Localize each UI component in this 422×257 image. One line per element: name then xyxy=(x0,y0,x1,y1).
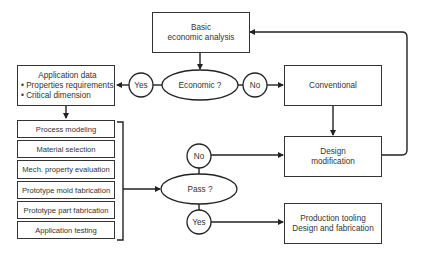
process-step-mech-property: Mech. property evaluation xyxy=(17,160,115,179)
economic-yes-label: Yes xyxy=(134,81,147,90)
conventional-label: Conventional xyxy=(309,81,357,91)
process-step-application-testing: Application testing xyxy=(17,221,115,239)
application-data-bullet-2: • Critical dimension xyxy=(21,91,91,101)
pass-decision-label: Pass ? xyxy=(187,185,212,194)
basic-line2: economic analysis xyxy=(168,33,235,43)
economic-no-label: No xyxy=(250,81,260,90)
process-bracket xyxy=(117,122,123,240)
process-step-prototype-mold: Prototype mold fabrication xyxy=(17,181,115,199)
application-data-title: Application data xyxy=(21,71,114,81)
design-mod-line1: Design xyxy=(320,147,346,157)
process-step-material-selection: Material selection xyxy=(17,140,115,158)
production-line2: Design and fabrication xyxy=(292,224,373,234)
pass-no-label: No xyxy=(194,152,204,161)
economic-decision-label: Economic ? xyxy=(179,81,222,90)
application-data-bullet-1: • Properties requirements xyxy=(21,81,114,91)
production-tooling-box: Production tooling Design and fabricatio… xyxy=(284,203,382,244)
basic-line1: Basic xyxy=(191,23,211,33)
design-mod-line2: modification xyxy=(311,157,355,167)
design-modification-box: Design modification xyxy=(284,136,382,177)
application-data-box: Application data • Properties requiremen… xyxy=(17,65,115,106)
basic-economic-analysis-box: Basic economic analysis xyxy=(152,12,250,53)
pass-yes-label: Yes xyxy=(192,218,205,227)
process-step-prototype-part: Prototype part fabrication xyxy=(17,201,115,219)
process-step-process-modeling: Process modeling xyxy=(17,120,115,138)
production-line1: Production tooling xyxy=(300,214,366,224)
conventional-box: Conventional xyxy=(284,65,382,106)
